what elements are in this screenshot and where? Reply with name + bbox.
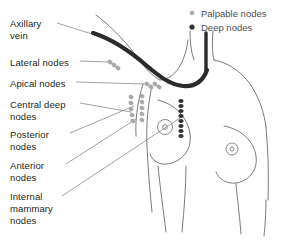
right-outer-contour [264, 200, 266, 236]
lateral-nodes-cluster [107, 59, 122, 71]
label-internal-mammary-nodes-line-2: mammary [10, 203, 53, 215]
apical-nodes-cluster [144, 81, 163, 90]
right-breast-contour [216, 126, 256, 183]
legend-item-deep-nodes-label: Deep nodes [201, 22, 252, 34]
deep-node [178, 129, 183, 133]
right-nipple-areola [226, 143, 238, 155]
leader-line-axillary-vein [57, 23, 92, 34]
palpable-node [128, 94, 134, 100]
leader-line-lateral-nodes [80, 61, 108, 62]
label-internal-mammary-nodes-line-1: Internal [10, 191, 43, 203]
label-anterior-nodes-line-2: nodes [10, 172, 36, 184]
palpable-node [128, 100, 134, 106]
label-apical-nodes: Apical nodes [10, 78, 66, 90]
deep-node [178, 119, 183, 123]
palpable-node [128, 106, 134, 112]
label-axillary-vein-line-2: vein [10, 30, 28, 42]
label-axillary-vein-line-1: Axillary [10, 18, 41, 30]
label-central-deep-nodes-line-2: nodes [10, 111, 36, 123]
palpable-node [139, 99, 145, 105]
left-torso-contour [147, 86, 152, 212]
left-shoulder-contour [160, 40, 188, 80]
label-central-deep-nodes-line-1: Central deep [10, 99, 66, 111]
palpable-node [139, 111, 145, 117]
leader-line-apical-nodes [76, 82, 145, 84]
left-nipple-areola [158, 120, 173, 135]
breast-lymphatic-diagram: Palpable nodes Deep nodes Axillary vein … [0, 0, 288, 244]
palpable-node [130, 118, 136, 124]
posterior-nodes-cluster [139, 93, 145, 123]
deep-node [178, 114, 183, 118]
label-posterior-nodes-line-1: Posterior [10, 129, 49, 141]
label-posterior-nodes-line-2: nodes [10, 141, 36, 153]
legend-item-palpable-nodes-label: Palpable nodes [201, 8, 267, 20]
deep-node [178, 109, 183, 113]
palpable-node [139, 105, 145, 111]
palpable-node [139, 117, 145, 123]
palpable-node [129, 112, 135, 118]
deep-node [178, 124, 183, 128]
label-internal-mammary-nodes-line-3: nodes [10, 215, 36, 227]
neck-left-contour [190, 31, 194, 60]
leader-lines-group [57, 23, 180, 196]
right-hip-contour [236, 184, 241, 234]
label-anterior-nodes-line-1: Anterior [10, 160, 44, 172]
neck-right-contour [212, 31, 214, 60]
right-torso-contour [266, 127, 268, 200]
legend-palpable-node-dot [190, 11, 195, 16]
label-lateral-nodes: Lateral nodes [10, 57, 69, 69]
legend-deep-node-dot [189, 24, 194, 29]
deep-node [178, 99, 183, 103]
leader-line-internal-mammary-nodes [62, 118, 180, 196]
left-hip-contour [158, 166, 166, 232]
leader-line-anterior-nodes [66, 119, 136, 164]
left-inner-leg-contour [182, 166, 186, 232]
leader-line-posterior-nodes [70, 106, 134, 133]
right-nipple [230, 147, 234, 151]
deep-node [178, 134, 183, 138]
right-shoulder-contour [214, 60, 266, 127]
deep-node [178, 104, 183, 108]
